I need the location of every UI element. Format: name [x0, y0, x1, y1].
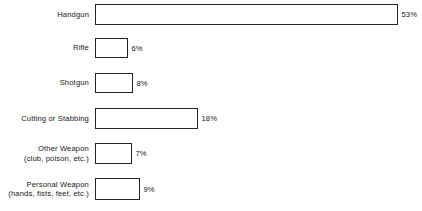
bar-handgun	[95, 4, 398, 25]
bar-row: Rifle 6%	[0, 38, 422, 58]
bar-row: Shotgun 8%	[0, 73, 422, 93]
bar-row: Cutting or Stabbing 18%	[0, 108, 422, 129]
bar-personal-weapon	[95, 178, 140, 200]
category-label: Shotgun	[0, 78, 89, 87]
bar-rifle	[95, 38, 128, 58]
bar-row: Handgun 53%	[0, 4, 422, 25]
value-label: 8%	[137, 79, 148, 88]
bar-other-weapon	[95, 143, 132, 164]
bar-cutting-or-stabbing	[95, 108, 198, 129]
value-label: 18%	[202, 114, 218, 123]
value-label: 53%	[402, 10, 418, 19]
bar-chart: Handgun 53% Rifle 6% Shotgun 8% Cutting …	[0, 0, 422, 211]
category-label: Cutting or Stabbing	[0, 114, 89, 123]
bar-row: Personal Weapon (hands, fists, feet, etc…	[0, 178, 422, 200]
category-label: Rifle	[0, 43, 89, 52]
bar-track: 7%	[89, 143, 422, 164]
value-label: 9%	[144, 185, 155, 194]
bar-track: 9%	[89, 178, 422, 200]
bar-shotgun	[95, 73, 133, 93]
bar-track: 6%	[89, 38, 422, 58]
bar-track: 18%	[89, 108, 422, 129]
category-label: Handgun	[0, 10, 89, 19]
category-label: Other Weapon (club, poison, etc.)	[0, 144, 89, 163]
category-label: Personal Weapon (hands, fists, feet, etc…	[0, 180, 89, 199]
value-label: 6%	[132, 44, 143, 53]
bar-track: 53%	[89, 4, 422, 25]
bar-track: 8%	[89, 73, 422, 93]
value-label: 7%	[136, 149, 147, 158]
bar-row: Other Weapon (club, poison, etc.) 7%	[0, 143, 422, 164]
